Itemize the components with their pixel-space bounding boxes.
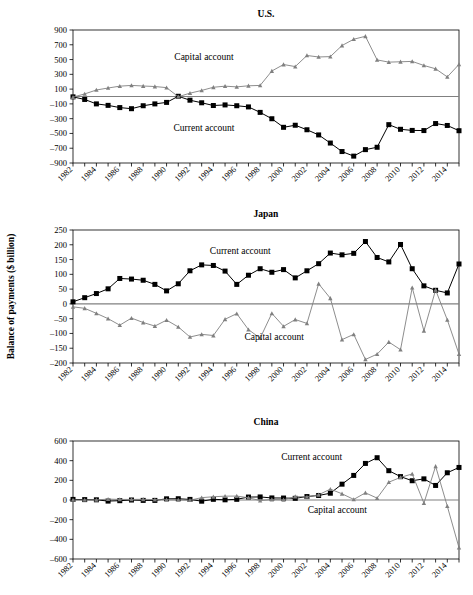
data-point-current-account bbox=[328, 141, 333, 146]
x-tick-label: 2014 bbox=[430, 164, 450, 184]
data-point-current-account bbox=[246, 273, 251, 278]
data-point-current-account bbox=[269, 116, 274, 121]
data-point-current-account bbox=[199, 100, 204, 105]
data-point-current-account bbox=[129, 106, 134, 111]
data-point-capital-account bbox=[363, 34, 367, 38]
data-point-current-account bbox=[457, 128, 462, 133]
data-point-current-account bbox=[152, 282, 157, 287]
y-tick-label: 500 bbox=[54, 55, 67, 65]
data-point-current-account bbox=[316, 261, 321, 266]
y-tick-label: –150 bbox=[49, 343, 67, 353]
x-tick-label: 1990 bbox=[149, 364, 168, 383]
x-tick-label: 2002 bbox=[289, 560, 308, 579]
data-point-current-account bbox=[363, 147, 368, 152]
x-tick-label: 1992 bbox=[172, 364, 191, 383]
data-point-capital-account bbox=[270, 69, 274, 73]
x-tick-label: 2004 bbox=[313, 164, 333, 184]
chart-svg-china: China6004002000–200–400–6001982198419861… bbox=[0, 403, 473, 595]
data-point-current-account bbox=[340, 149, 345, 154]
y-tick-label: –100 bbox=[49, 99, 67, 109]
series-annotation-label: Current account bbox=[210, 246, 271, 256]
data-point-capital-account bbox=[410, 285, 414, 289]
data-point-current-account bbox=[351, 473, 356, 478]
data-point-current-account bbox=[457, 465, 462, 470]
x-tick-label: 1998 bbox=[242, 364, 261, 383]
data-point-current-account bbox=[363, 239, 368, 244]
x-tick-label: 1988 bbox=[126, 164, 145, 183]
data-point-capital-account bbox=[445, 318, 449, 322]
data-point-current-account bbox=[398, 242, 403, 247]
data-point-current-account bbox=[421, 283, 426, 288]
data-point-current-account bbox=[304, 268, 309, 273]
y-tick-label: –50 bbox=[53, 314, 67, 324]
y-tick-label: –500 bbox=[49, 128, 67, 138]
x-tick-label: 2010 bbox=[383, 364, 402, 383]
data-point-capital-account bbox=[410, 472, 414, 476]
x-tick-label: 1996 bbox=[219, 560, 238, 579]
series-annotation-label: Current account bbox=[281, 452, 342, 462]
data-point-current-account bbox=[211, 103, 216, 108]
x-tick-label: 2006 bbox=[336, 560, 355, 579]
chart-panel-china: China6004002000–200–400–6001982198419861… bbox=[0, 403, 473, 595]
data-point-current-account bbox=[164, 100, 169, 105]
x-tick-label: 2006 bbox=[336, 164, 355, 183]
data-point-current-account bbox=[316, 132, 321, 137]
x-tick-label: 2008 bbox=[359, 560, 378, 579]
y-axis-label: Balance of payments ($ billion) bbox=[6, 234, 17, 360]
data-point-current-account bbox=[106, 103, 111, 108]
data-point-capital-account bbox=[433, 464, 437, 468]
data-point-current-account bbox=[375, 255, 380, 260]
series-line-current-account bbox=[73, 458, 459, 501]
data-point-capital-account bbox=[340, 43, 344, 47]
data-point-capital-account bbox=[129, 316, 133, 320]
y-tick-label: 250 bbox=[54, 225, 67, 235]
y-tick-label: 300 bbox=[54, 69, 67, 79]
x-tick-label: 1996 bbox=[219, 164, 238, 183]
data-point-current-account bbox=[234, 282, 239, 287]
x-tick-label: 2014 bbox=[430, 364, 450, 384]
data-point-current-account bbox=[351, 251, 356, 256]
x-tick-label: 1984 bbox=[79, 164, 99, 184]
data-point-current-account bbox=[386, 259, 391, 264]
x-tick-label: 1988 bbox=[126, 364, 145, 383]
data-point-current-account bbox=[445, 290, 450, 295]
data-point-current-account bbox=[187, 98, 192, 103]
data-point-current-account bbox=[351, 154, 356, 159]
series-annotation-label: Capital account bbox=[174, 52, 234, 62]
data-point-current-account bbox=[117, 276, 122, 281]
data-point-capital-account bbox=[457, 62, 461, 66]
y-tick-label: 400 bbox=[54, 456, 67, 466]
x-tick-label: 2012 bbox=[406, 560, 425, 579]
x-tick-label: 1992 bbox=[172, 560, 191, 579]
data-point-current-account bbox=[258, 110, 263, 115]
x-tick-label: 1990 bbox=[149, 164, 168, 183]
data-point-current-account bbox=[152, 101, 157, 106]
data-point-current-account bbox=[211, 263, 216, 268]
balance-of-payments-figure: U.S.900700500300100–100–300–500–700–9001… bbox=[0, 0, 473, 595]
x-tick-label: 2004 bbox=[313, 364, 333, 384]
x-tick-label: 2004 bbox=[313, 560, 333, 580]
data-point-capital-account bbox=[316, 282, 320, 286]
data-point-current-account bbox=[375, 455, 380, 460]
data-point-current-account bbox=[187, 268, 192, 273]
data-point-current-account bbox=[117, 105, 122, 110]
data-point-current-account bbox=[82, 97, 87, 102]
x-tick-label: 1994 bbox=[196, 560, 216, 580]
y-tick-label: 0 bbox=[63, 299, 67, 309]
data-point-capital-account bbox=[422, 329, 426, 333]
x-tick-label: 1990 bbox=[149, 560, 168, 579]
y-tick-label: 150 bbox=[54, 255, 67, 265]
data-point-capital-account bbox=[398, 348, 402, 352]
data-point-current-account bbox=[258, 266, 263, 271]
x-tick-label: 2008 bbox=[359, 164, 378, 183]
data-point-capital-account bbox=[387, 340, 391, 344]
x-tick-label: 2012 bbox=[406, 364, 425, 383]
data-point-current-account bbox=[71, 299, 76, 304]
data-point-current-account bbox=[223, 497, 228, 502]
x-tick-label: 2002 bbox=[289, 364, 308, 383]
x-tick-label: 2000 bbox=[266, 364, 285, 383]
data-point-capital-account bbox=[270, 311, 274, 315]
data-point-current-account bbox=[281, 267, 286, 272]
data-point-current-account bbox=[293, 123, 298, 128]
data-point-current-account bbox=[129, 277, 134, 282]
